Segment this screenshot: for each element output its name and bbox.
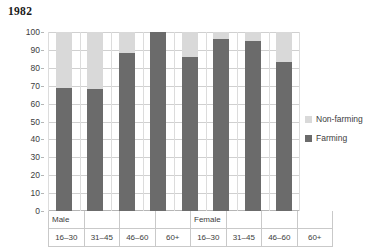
x-axis-age-label: 31–45	[84, 229, 120, 247]
legend-label: Farming	[316, 133, 347, 143]
x-axis-group-spacer	[262, 211, 298, 229]
stacked-bar[interactable]	[245, 32, 261, 211]
stacked-bar[interactable]	[213, 32, 229, 211]
x-axis-age-label: 16–30	[49, 229, 85, 247]
y-tick-label: 40	[31, 135, 40, 144]
y-axis: 1009080706050403020100	[0, 32, 44, 211]
stacked-bar[interactable]	[56, 32, 72, 211]
stacked-bar[interactable]	[276, 32, 292, 211]
x-axis-age-label: 60+	[155, 229, 191, 247]
stacked-bar[interactable]	[119, 32, 135, 211]
legend-item[interactable]: Farming	[305, 133, 363, 143]
y-tick-mark	[41, 86, 44, 87]
x-axis-age-label: 60+	[297, 229, 333, 247]
x-axis-age-label: 16–30	[191, 229, 227, 247]
x-axis-group-spacer	[155, 211, 191, 229]
y-tick-label: 90	[31, 46, 40, 55]
stacked-bar[interactable]	[87, 32, 103, 211]
bar-segment-non-farming[interactable]	[245, 32, 261, 41]
bar-segment-farming[interactable]	[276, 62, 292, 211]
y-tick-label: 20	[31, 171, 40, 180]
y-tick-label: 10	[31, 189, 40, 198]
bar-segment-farming[interactable]	[56, 88, 72, 212]
bar-segment-non-farming[interactable]	[213, 32, 229, 39]
plot-area	[48, 32, 300, 211]
y-tick-label: 30	[31, 153, 40, 162]
stacked-bar[interactable]	[150, 32, 166, 211]
x-axis-group-spacer	[226, 211, 262, 229]
bar-segment-farming[interactable]	[213, 39, 229, 211]
y-tick-mark	[41, 104, 44, 105]
x-axis-age-row: 16–3031–4546–6060+16–3031–4546–6060+	[49, 229, 333, 247]
x-axis-group-label: Male	[49, 211, 85, 229]
bar-segment-farming[interactable]	[119, 53, 135, 211]
chart-title: 1982	[8, 5, 32, 17]
legend-swatch-icon	[305, 116, 312, 123]
bar-segment-non-farming[interactable]	[56, 32, 72, 87]
y-tick-mark	[41, 211, 44, 212]
legend-label: Non-farming	[316, 114, 363, 124]
bar-segment-non-farming[interactable]	[276, 32, 292, 62]
legend-item[interactable]: Non-farming	[305, 114, 363, 124]
x-axis-label-table: MaleFemale 16–3031–4546–6060+16–3031–454…	[48, 211, 333, 247]
bar-segment-non-farming[interactable]	[119, 32, 135, 53]
x-axis-group-spacer	[297, 211, 333, 229]
x-axis-age-label: 46–60	[120, 229, 156, 247]
x-axis-group-label: Female	[191, 211, 227, 229]
x-axis-age-label: 31–45	[226, 229, 262, 247]
y-tick-label: 50	[31, 117, 40, 126]
bar-segment-farming[interactable]	[150, 32, 166, 211]
x-axis-group-spacer	[120, 211, 156, 229]
bar-segment-farming[interactable]	[87, 89, 103, 211]
y-tick-label: 60	[31, 99, 40, 108]
y-tick-mark	[41, 68, 44, 69]
y-tick-mark	[41, 193, 44, 194]
y-tick-mark	[41, 50, 44, 51]
legend: Non-farmingFarming	[305, 114, 363, 143]
y-tick-mark	[41, 122, 44, 123]
y-tick-label: 70	[31, 81, 40, 90]
y-tick-label: 80	[31, 64, 40, 73]
y-tick-label: 100	[26, 28, 40, 37]
x-axis-age-label: 46–60	[262, 229, 298, 247]
y-tick-mark	[41, 157, 44, 158]
legend-swatch-icon	[305, 135, 312, 142]
x-axis-group-row: MaleFemale	[49, 211, 333, 229]
bar-segment-non-farming[interactable]	[182, 32, 198, 57]
bar-segment-farming[interactable]	[245, 41, 261, 211]
bar-segment-farming[interactable]	[182, 57, 198, 211]
y-tick-mark	[41, 32, 44, 33]
y-tick-mark	[41, 175, 44, 176]
bar-series-container	[48, 32, 300, 211]
bar-segment-non-farming[interactable]	[87, 32, 103, 89]
x-axis-group-spacer	[84, 211, 120, 229]
stacked-bar[interactable]	[182, 32, 198, 211]
y-tick-label: 0	[35, 207, 40, 216]
y-tick-mark	[41, 139, 44, 140]
